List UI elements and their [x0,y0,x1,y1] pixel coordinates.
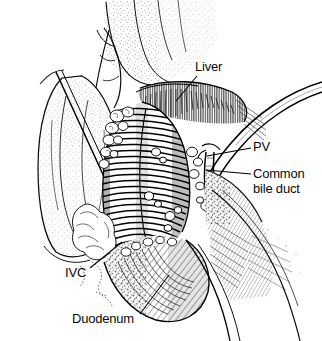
label-common-bile-duct: Common bile duct [253,166,317,196]
caption-partial [0,334,322,341]
label-common-bile-duct-line1: Common [253,166,305,181]
anatomy-figure: Liver PV Common bile duct IVC Duodenum [0,0,322,341]
label-duodenum: Duodenum [72,312,134,326]
label-common-bile-duct-line2: bile duct [253,181,300,196]
label-inferior-vena-cava: IVC [65,266,86,280]
label-liver: Liver [195,60,222,74]
label-portal-vein: PV [253,140,270,154]
